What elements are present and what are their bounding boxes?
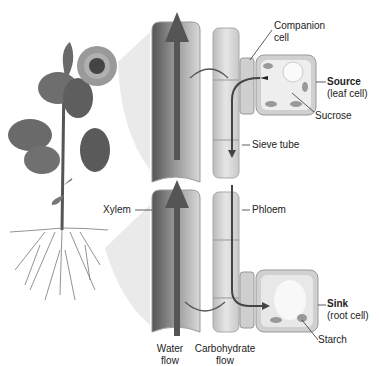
sieve-tube-label: Sieve tube: [252, 139, 299, 151]
carbohydrate-flow-line2: flow: [190, 355, 260, 366]
source-subtitle: (leaf cell): [327, 88, 368, 100]
carbohydrate-flow-label: Carbohydrate flow: [190, 343, 260, 366]
phloem-sieve-tube: [213, 28, 239, 332]
water-flow-label: Water flow: [150, 343, 190, 366]
source-label: Source (leaf cell): [327, 76, 368, 100]
diagram-illustration: [0, 0, 379, 366]
sucrose-label: Sucrose: [315, 110, 352, 122]
zoom-funnel-bottom: [105, 205, 150, 325]
water-flow-line2: flow: [150, 355, 190, 366]
companion-cell-bottom: [240, 272, 254, 328]
sink-root-cell: [256, 270, 318, 332]
starch-label: Starch: [318, 334, 347, 346]
companion-cell-top: [240, 58, 254, 114]
xylem-label: Xylem: [103, 204, 131, 216]
roots: [10, 228, 108, 300]
companion-cell-label: Companion cell: [274, 20, 325, 44]
sunflower-plant: [8, 42, 117, 230]
carbohydrate-flow-line1: Carbohydrate: [190, 343, 260, 355]
companion-cell-label-line1: Companion: [274, 20, 325, 32]
sink-label: Sink (root cell): [327, 298, 369, 322]
phloem-label: Phloem: [252, 204, 286, 216]
sink-subtitle: (root cell): [327, 310, 369, 322]
sink-title: Sink: [327, 298, 369, 310]
zoom-funnel-top: [118, 32, 150, 170]
source-title: Source: [327, 76, 368, 88]
companion-cell-label-line2: cell: [274, 32, 325, 44]
water-flow-line1: Water: [150, 343, 190, 355]
